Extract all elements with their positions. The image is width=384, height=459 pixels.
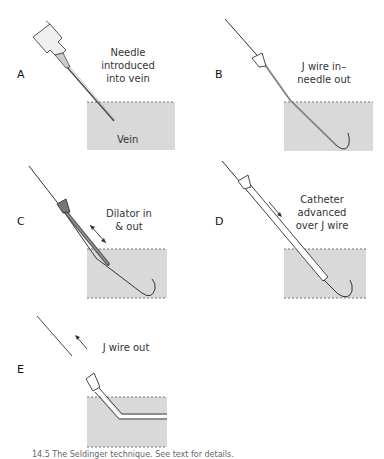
caption-b: J wire in– needle out	[296, 60, 352, 86]
panel-a-drawing	[33, 21, 175, 150]
caption-d-line-1: Catheter	[294, 193, 350, 206]
catheter-hub-e	[86, 373, 100, 391]
caption-a-line-2: introduced	[100, 59, 156, 72]
needle-hub	[33, 24, 70, 68]
caption-a-line-1: Needle	[100, 46, 156, 59]
j-wire-withdrawn	[37, 316, 72, 356]
caption-a-line-3: into vein	[100, 72, 156, 85]
caption-b-line-1: J wire in–	[296, 60, 352, 73]
panel-label-b: B	[215, 68, 223, 81]
caption-c-line-1: Dilator in	[101, 207, 157, 220]
caption-e-line-1: J wire out	[96, 341, 156, 354]
vein-b	[284, 102, 373, 151]
dilator-hub	[57, 199, 70, 213]
vein-e	[87, 397, 167, 447]
caption-c-line-2: & out	[101, 220, 157, 233]
wire-hub	[252, 53, 266, 67]
panel-label-a: A	[17, 68, 25, 81]
panel-label-c: C	[17, 215, 25, 228]
caption-c: Dilator in & out	[101, 207, 157, 233]
caption-d: Catheter advanced over J wire	[294, 193, 350, 232]
caption-e: J wire out	[96, 341, 156, 354]
caption-d-line-3: over J wire	[294, 219, 350, 232]
caption-d-line-2: advanced	[294, 206, 350, 219]
caption-b-line-2: needle out	[296, 73, 352, 86]
panel-e-drawing	[37, 316, 167, 447]
panel-label-e: E	[17, 363, 24, 376]
catheter-hub	[238, 175, 251, 189]
figure-caption: 14.5 The Seldinger technique. See text f…	[32, 450, 234, 459]
withdraw-arrow-icon	[75, 335, 87, 349]
caption-a: Needle introduced into vein	[100, 46, 156, 85]
panel-label-d: D	[215, 215, 223, 228]
vein-label: Vein	[117, 134, 138, 145]
